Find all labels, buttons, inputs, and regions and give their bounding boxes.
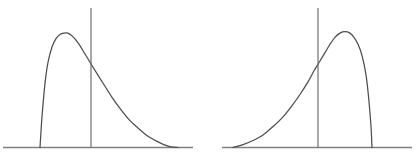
skewed-distributions-figure — [0, 0, 419, 159]
left-skewed-right-curve — [40, 33, 178, 148]
right-panel — [222, 8, 412, 148]
right-skewed-left-curve — [233, 32, 372, 148]
left-panel — [3, 8, 193, 148]
figure-canvas — [0, 0, 419, 159]
